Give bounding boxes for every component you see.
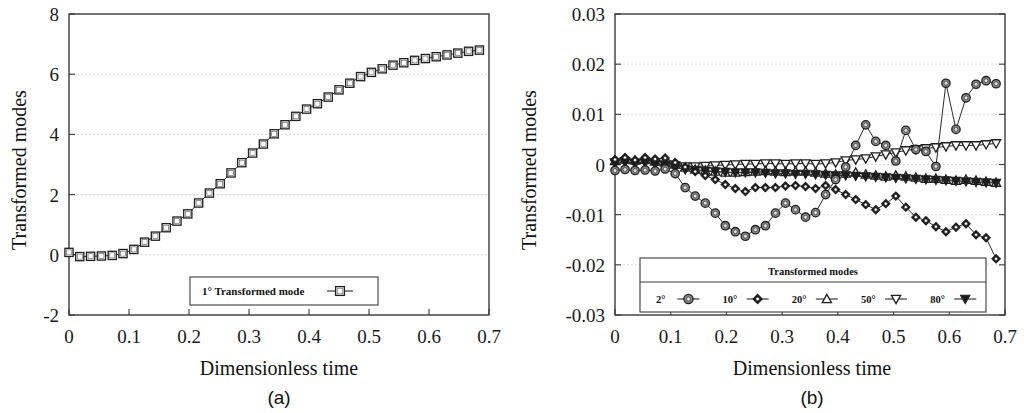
- data-point-open-square: [173, 217, 181, 225]
- data-point-open-square: [389, 61, 397, 69]
- chart-a-legend-label: 1° Transformed mode: [202, 285, 304, 297]
- data-point-circle: [681, 183, 689, 191]
- data-point-open-square: [195, 199, 203, 207]
- chart-a-x-tick-label: 0: [64, 326, 74, 347]
- chart-a-x-tick-labels: 00.10.20.30.40.50.60.7: [64, 326, 501, 347]
- chart-b-x-tick-label: 0.1: [659, 326, 683, 347]
- data-point-circle: [892, 157, 900, 165]
- chart-a-y-tick-label: 2: [50, 185, 60, 206]
- chart-b-x-tick-label: 0: [610, 326, 620, 347]
- data-point-open-square: [238, 159, 246, 167]
- data-point-circle: [671, 169, 679, 177]
- data-point-circle: [992, 80, 1000, 88]
- data-point-diamond: [942, 228, 950, 236]
- data-point-circle: [922, 147, 930, 155]
- data-point-open-square: [313, 100, 321, 108]
- chart-b-legend-item-50deg[interactable]: 50°: [861, 294, 876, 305]
- data-point-circle: [631, 166, 639, 174]
- data-point-circle: [751, 226, 759, 234]
- data-point-circle: [781, 199, 789, 207]
- data-point-open-square: [270, 130, 278, 138]
- chart-b-y-tick-label: -0.03: [565, 305, 605, 326]
- data-point-diamond: [751, 183, 759, 191]
- chart-b-caption: (b): [800, 387, 823, 408]
- data-point-open-square: [432, 53, 440, 61]
- data-point-open-square: [367, 68, 375, 76]
- chart-b-series-group: [610, 77, 1000, 263]
- data-point-circle: [882, 141, 890, 149]
- data-point-circle: [952, 125, 960, 133]
- chart-b-y-tick-label: 0.01: [572, 104, 605, 125]
- chart-a-x-tick-label: 0.4: [297, 326, 321, 347]
- chart-b-legend-item-2deg[interactable]: 2°: [656, 294, 665, 305]
- data-point-open-square: [119, 249, 127, 257]
- data-point-circle: [972, 80, 980, 88]
- chart-b-y-tick-label: -0.02: [565, 255, 605, 276]
- data-point-open-square: [141, 238, 149, 246]
- data-point-diamond: [801, 182, 809, 190]
- chart-b-legend-item-20deg[interactable]: 20°: [792, 294, 807, 305]
- data-point-diamond: [771, 183, 779, 191]
- data-point-diamond: [781, 182, 789, 190]
- data-point-circle: [821, 190, 829, 198]
- data-point-circle: [691, 192, 699, 200]
- data-point-diamond: [982, 234, 990, 242]
- data-point-diamond: [851, 195, 859, 203]
- chart-b-legend-title: Transformed modes: [768, 266, 858, 277]
- chart-b-x-tick-label: 0.6: [937, 326, 961, 347]
- data-point-circle: [684, 294, 693, 303]
- data-point-open-square: [421, 54, 429, 62]
- chart-a-y-tick-label: 8: [50, 4, 60, 25]
- data-point-diamond: [872, 205, 880, 213]
- chart-b-legend-item-10deg[interactable]: 10°: [723, 294, 738, 305]
- data-point-diamond: [741, 187, 749, 195]
- chart-b-legend[interactable]: Transformed modes2°10°20°50°80°: [640, 258, 986, 312]
- chart-a-x-tick-label: 0.2: [177, 326, 201, 347]
- data-point-circle: [811, 208, 819, 216]
- chart-a-y-tick-label: 4: [50, 124, 60, 145]
- data-point-diamond: [932, 223, 940, 231]
- data-point-circle: [611, 166, 619, 174]
- chart-a-x-tick-label: 0.6: [417, 326, 441, 347]
- data-point-diamond: [761, 183, 769, 191]
- data-point-circle: [641, 166, 649, 174]
- chart-b-y-axis-title: Transformed modes: [518, 90, 540, 250]
- chart-b-legend-item-80deg[interactable]: 80°: [930, 294, 945, 305]
- data-point-diamond: [922, 216, 930, 224]
- chart-a-series-line: [69, 50, 479, 256]
- chart-b-x-tick-label: 0.7: [993, 326, 1017, 347]
- data-point-circle: [721, 222, 729, 230]
- data-point-open-square: [335, 86, 343, 94]
- chart-b-x-tick-label: 0.2: [715, 326, 739, 347]
- data-point-open-square: [87, 252, 95, 260]
- data-point-circle: [872, 137, 880, 145]
- chart-b-y-tick-label: 0.02: [572, 54, 605, 75]
- chart-a-y-axis-title: Transformed modes: [8, 90, 30, 250]
- data-point-open-square: [303, 105, 311, 113]
- data-point-circle: [932, 162, 940, 170]
- data-point-circle: [711, 209, 719, 217]
- chart-a-x-tick-label: 0.7: [477, 326, 501, 347]
- chart-panel-b: 0.030.020.010-0.01-0.02-0.03 00.10.20.30…: [512, 0, 1024, 413]
- figure-root: 86420-2 00.10.20.30.40.50.60.7 1° Transf…: [0, 0, 1024, 413]
- data-point-diamond: [811, 184, 819, 192]
- data-point-open-square: [205, 189, 213, 197]
- data-point-diamond: [992, 255, 1000, 263]
- chart-a-y-tick-label: -2: [43, 305, 59, 326]
- data-point-open-square: [227, 169, 235, 177]
- chart-a-svg: 86420-2 00.10.20.30.40.50.60.7 1° Transf…: [0, 0, 512, 413]
- chart-a-legend[interactable]: 1° Transformed mode: [190, 277, 378, 305]
- data-point-circle: [862, 121, 870, 129]
- data-point-diamond: [721, 180, 729, 188]
- chart-b-x-tick-label: 0.3: [770, 326, 794, 347]
- data-point-circle: [621, 165, 629, 173]
- data-point-open-square: [281, 121, 289, 129]
- data-point-open-square: [400, 59, 408, 67]
- chart-b-y-tick-label: 0: [596, 155, 606, 176]
- data-point-circle: [851, 141, 859, 149]
- data-point-open-square: [346, 79, 354, 87]
- data-point-diamond: [711, 175, 719, 183]
- data-point-open-square: [443, 51, 451, 59]
- data-point-circle: [942, 79, 950, 87]
- chart-b-svg: 0.030.020.010-0.01-0.02-0.03 00.10.20.30…: [512, 0, 1024, 413]
